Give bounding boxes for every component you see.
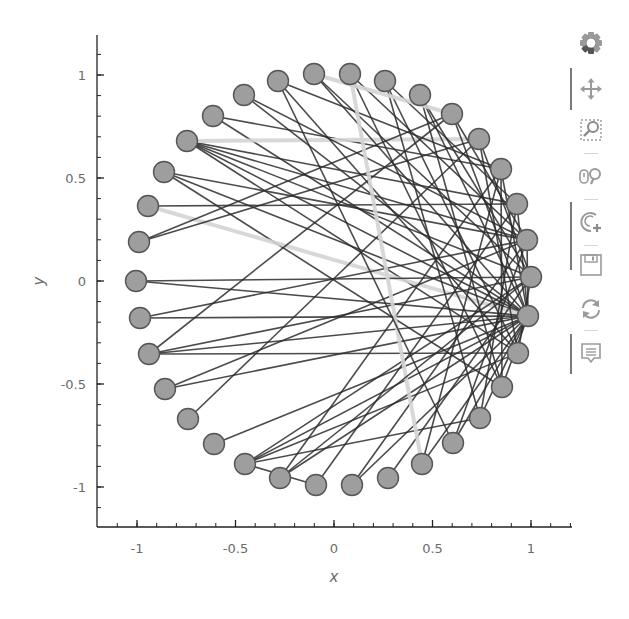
graph-node[interactable] xyxy=(508,343,529,364)
graph-node[interactable] xyxy=(469,129,490,150)
x-tick-label: -0.5 xyxy=(223,541,248,556)
toolbar-separator xyxy=(584,153,598,154)
x-tick-label: 0.5 xyxy=(422,541,443,556)
graph-node[interactable] xyxy=(154,162,175,183)
graph-edge xyxy=(149,114,452,354)
graph-node[interactable] xyxy=(138,196,159,217)
toolbar-separator xyxy=(584,330,598,331)
graph-node[interactable] xyxy=(268,71,289,92)
graph-node[interactable] xyxy=(130,308,151,329)
y-axis-label: y xyxy=(30,275,48,286)
graph-edge xyxy=(501,169,502,387)
pan-tool-button[interactable] xyxy=(576,74,606,104)
graph-node[interactable] xyxy=(342,475,363,496)
y-tick-label: 0 xyxy=(78,274,86,289)
graph-node[interactable] xyxy=(177,131,198,152)
graph-node[interactable] xyxy=(412,454,433,475)
box-zoom-tool-button[interactable] xyxy=(576,115,606,145)
network-graph-plot[interactable]: -1-0.500.51 -1-0.500.51 x y xyxy=(0,0,629,619)
toolbar-separator xyxy=(584,199,598,200)
graph-node[interactable] xyxy=(491,159,512,180)
y-tick-label: -0.5 xyxy=(61,377,86,392)
wheel-zoom-icon xyxy=(578,163,604,189)
graph-node[interactable] xyxy=(155,379,176,400)
graph-node[interactable] xyxy=(492,377,513,398)
bokeh-logo-icon[interactable] xyxy=(576,28,606,58)
graph-node[interactable] xyxy=(178,409,199,430)
graph-node[interactable] xyxy=(442,104,463,125)
y-tick-label: -1 xyxy=(73,480,86,495)
reset-tool-button[interactable] xyxy=(576,294,606,324)
box-zoom-icon xyxy=(578,117,604,143)
graph-node[interactable] xyxy=(521,267,542,288)
pan-active-indicator xyxy=(570,68,572,110)
x-axis: -1-0.500.51 xyxy=(97,520,572,556)
graph-node[interactable] xyxy=(129,232,150,253)
graph-node[interactable] xyxy=(518,306,539,327)
save-tool-button[interactable] xyxy=(576,250,606,280)
reset-icon xyxy=(578,296,604,322)
graph-node[interactable] xyxy=(507,194,528,215)
graph-node[interactable] xyxy=(304,64,325,85)
plot-toolbar xyxy=(570,26,614,376)
graph-node[interactable] xyxy=(306,475,327,496)
zoom-in-active-indicator xyxy=(570,202,572,270)
graph-node[interactable] xyxy=(139,344,160,365)
hover-icon xyxy=(578,340,604,366)
x-tick-label: 1 xyxy=(527,541,535,556)
zoom-in-tool-button[interactable] xyxy=(576,207,606,237)
graph-node[interactable] xyxy=(126,271,147,292)
y-axis: -1-0.500.51 xyxy=(61,35,104,527)
graph-edge xyxy=(280,277,531,478)
hover-tool-button[interactable] xyxy=(576,338,606,368)
x-axis-label: x xyxy=(329,568,339,586)
graph-node[interactable] xyxy=(470,408,491,429)
graph-node[interactable] xyxy=(340,64,361,85)
graph-node[interactable] xyxy=(203,106,224,127)
pan-icon xyxy=(578,76,604,102)
graph-node[interactable] xyxy=(378,468,399,489)
save-icon xyxy=(578,252,604,278)
x-tick-label: 0 xyxy=(330,541,338,556)
graph-node[interactable] xyxy=(517,230,538,251)
graph-node[interactable] xyxy=(235,454,256,475)
x-tick-label: -1 xyxy=(131,541,144,556)
y-tick-label: 1 xyxy=(78,68,86,83)
graph-node[interactable] xyxy=(234,85,255,106)
toolbar-separator xyxy=(584,245,598,246)
zoom-in-icon xyxy=(578,209,604,235)
y-tick-label: 0.5 xyxy=(65,171,86,186)
graph-node[interactable] xyxy=(443,433,464,454)
graph-node[interactable] xyxy=(375,71,396,92)
graph-node[interactable] xyxy=(410,85,431,106)
wheel-zoom-tool-button[interactable] xyxy=(576,161,606,191)
graph-edge xyxy=(164,172,528,316)
graph-node[interactable] xyxy=(204,434,225,455)
hover-active-indicator xyxy=(570,334,572,374)
graph-node[interactable] xyxy=(270,468,291,489)
